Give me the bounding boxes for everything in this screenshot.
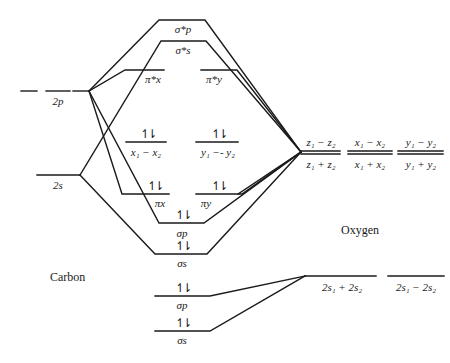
- electron-pair-icon: ↿⇂: [147, 180, 161, 192]
- sigma-s-star-label: σ*s: [175, 45, 190, 56]
- sigma-s-star-level: [80, 41, 301, 175]
- lower-sigma-p-label: σp: [177, 300, 188, 311]
- oxygen-2s-minus-label: 2s₁ − 2s₂: [396, 282, 436, 293]
- electron-pair-icon: ↿⇂: [211, 180, 225, 192]
- pi-x-star-label: π*x: [145, 74, 161, 85]
- sigma-p-star-level: [89, 20, 301, 152]
- electron-pair-icon: ↿⇂: [175, 282, 189, 294]
- oxygen-y-plus-label: y₁ + y₂: [406, 159, 436, 170]
- oxygen-x-minus-label: x₁ − x₂: [355, 137, 385, 148]
- electron-pair-icon: ↿⇂: [211, 128, 225, 140]
- carbon-2p-label: 2p: [53, 96, 64, 107]
- electron-pair-icon: ↿⇂: [175, 317, 189, 329]
- pi-y-star-label: π*y: [206, 74, 222, 85]
- electron-pair-icon: ↿⇂: [175, 240, 189, 252]
- oxygen-label: Oxygen: [341, 224, 379, 236]
- nonbonding-y-label: y₁ −- y₂: [201, 147, 235, 158]
- pi-x-label: πx: [155, 198, 165, 209]
- oxygen-2s-plus-label: 2s₁ + 2s₂: [322, 282, 362, 293]
- oxygen-z-plus-label: z₁ + z₂: [306, 159, 335, 170]
- carbon-label: Carbon: [50, 271, 85, 283]
- nonbonding-x-label: x₁ − x₂: [131, 147, 161, 158]
- electron-pair-icon: ↿⇂: [140, 128, 154, 140]
- pi-y-label: πy: [201, 198, 211, 209]
- oxygen-z-minus-label: z₁ − z₂: [306, 137, 335, 148]
- sigma-p-label: σp: [177, 228, 188, 239]
- oxygen-x-plus-label: x₁ + x₂: [355, 159, 385, 170]
- sigma-s-label: σs: [177, 258, 187, 269]
- electron-pair-icon: ↿⇂: [175, 209, 189, 221]
- carbon-2s-label: 2s: [53, 180, 63, 191]
- oxygen-y-minus-label: y₁ − y₂: [406, 137, 436, 148]
- lower-sigma-s-label: σs: [177, 335, 187, 346]
- sigma-p-star-label: σ*p: [175, 24, 191, 35]
